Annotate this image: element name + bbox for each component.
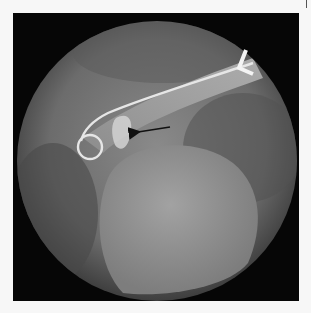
xray-frame [13, 13, 299, 301]
heart-silhouette [100, 145, 258, 294]
fluoroscopy-image [13, 13, 299, 301]
corner-tick-mark [306, 0, 307, 8]
